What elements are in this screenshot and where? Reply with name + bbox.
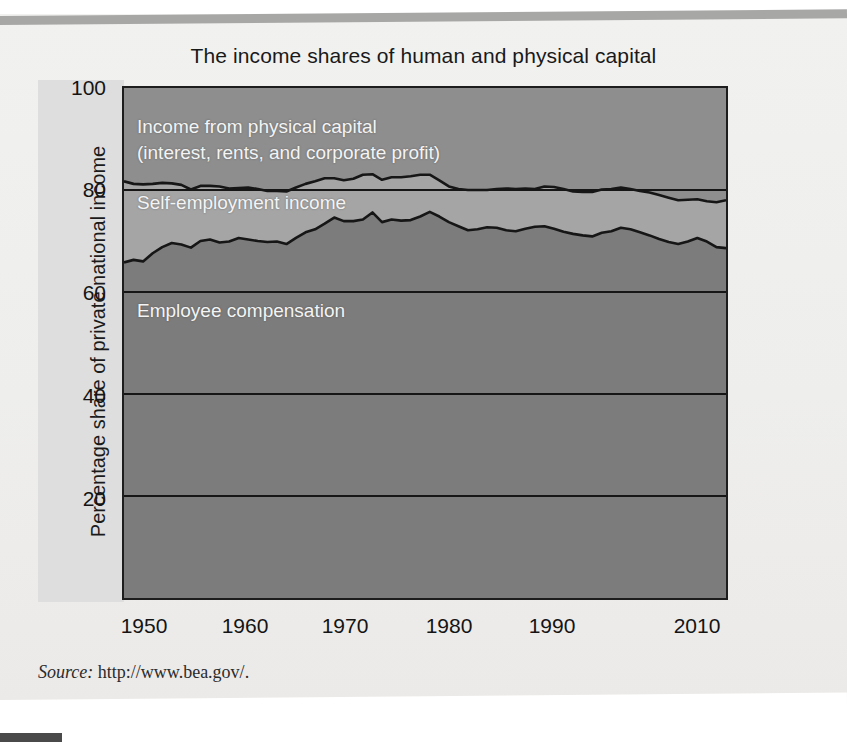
band-label-employee-compensation: Employee compensation bbox=[137, 300, 345, 322]
band-label-physical-capital-detail: (interest, rents, and corporate profit) bbox=[137, 142, 440, 164]
y-tick-40: 40 bbox=[46, 384, 106, 408]
x-tick-1980: 1980 bbox=[404, 614, 494, 638]
band-label-physical-capital: Income from physical capital bbox=[137, 116, 377, 138]
source-url: http://www.bea.gov/. bbox=[98, 662, 249, 682]
y-tick-60: 60 bbox=[46, 281, 106, 305]
x-tick-1970: 1970 bbox=[300, 614, 390, 638]
chart-title: The income shares of human and physical … bbox=[0, 44, 847, 68]
x-tick-1950: 1950 bbox=[99, 614, 189, 638]
source-label: Source: bbox=[38, 662, 93, 682]
band-label-self-employment: Self-employment income bbox=[137, 192, 346, 214]
source-line: Source: http://www.bea.gov/. bbox=[38, 662, 249, 683]
y-tick-20: 20 bbox=[46, 487, 106, 511]
y-axis-strip: Percentage share of private national inc… bbox=[38, 80, 124, 602]
figure-page: The income shares of human and physical … bbox=[0, 0, 847, 748]
y-tick-100: 100 bbox=[46, 76, 106, 100]
y-tick-80: 80 bbox=[46, 178, 106, 202]
y-axis-label: Percentage share of private national inc… bbox=[87, 82, 110, 602]
x-tick-2010: 2010 bbox=[652, 614, 742, 638]
x-tick-1990: 1990 bbox=[507, 614, 597, 638]
corner-mark bbox=[0, 733, 62, 742]
stacked-area-chart bbox=[124, 88, 726, 598]
x-tick-1960: 1960 bbox=[200, 614, 290, 638]
